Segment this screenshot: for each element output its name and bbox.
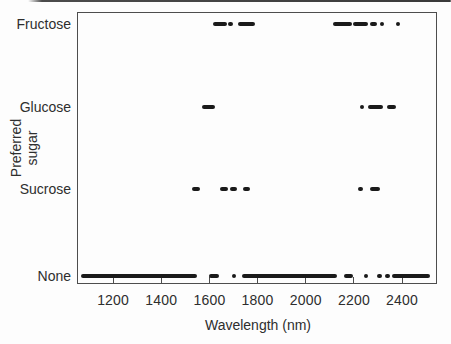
tick-label-2400: 2400 bbox=[372, 292, 432, 308]
category-label-sucrose: Sucrose bbox=[0, 181, 71, 197]
tick-mark-1400 bbox=[161, 277, 162, 283]
data-segment-sucrose bbox=[370, 187, 380, 191]
data-segment-none bbox=[377, 274, 382, 278]
data-segment-none bbox=[385, 274, 390, 278]
tick-mark-1600 bbox=[209, 277, 210, 283]
y-axis-label-line2: sugar bbox=[24, 119, 40, 177]
data-segment-sucrose bbox=[220, 187, 228, 191]
data-segment-fructose bbox=[238, 22, 255, 26]
data-segment-sucrose bbox=[243, 187, 250, 191]
data-segment-fructose bbox=[353, 22, 368, 26]
data-segment-fructose bbox=[213, 22, 227, 26]
data-segment-glucose bbox=[387, 105, 396, 109]
tick-mark-1200 bbox=[113, 277, 114, 283]
data-segment-none bbox=[242, 274, 337, 278]
data-segment-glucose bbox=[368, 105, 383, 109]
data-segment-fructose bbox=[333, 22, 351, 26]
data-segment-none bbox=[392, 274, 430, 278]
y-axis-label-line1: Preferred bbox=[8, 119, 24, 177]
data-segment-none bbox=[344, 274, 353, 278]
data-segment-sucrose bbox=[358, 187, 363, 191]
x-axis-label: Wavelength (nm) bbox=[205, 317, 311, 333]
category-label-none: None bbox=[0, 268, 71, 284]
scan-artifact-line bbox=[28, 0, 451, 2]
tick-mark-2200 bbox=[353, 277, 354, 283]
data-segment-none bbox=[364, 274, 368, 278]
y-axis-label: Preferred sugar bbox=[8, 119, 40, 177]
data-segment-sucrose bbox=[192, 187, 200, 191]
figure: Preferred sugar Wavelength (nm) 12001400… bbox=[0, 0, 451, 344]
category-label-fructose: Fructose bbox=[0, 16, 71, 32]
data-segment-fructose bbox=[228, 22, 233, 26]
category-label-glucose: Glucose bbox=[0, 99, 71, 115]
data-segment-glucose bbox=[202, 105, 215, 109]
data-segment-sucrose bbox=[230, 187, 237, 191]
data-segment-none bbox=[81, 274, 197, 278]
data-segment-fructose bbox=[370, 22, 377, 26]
data-segment-none bbox=[232, 274, 236, 278]
tick-mark-2000 bbox=[305, 277, 306, 283]
data-segment-none bbox=[209, 274, 219, 278]
tick-mark-2400 bbox=[402, 277, 403, 283]
tick-mark-1800 bbox=[257, 277, 258, 283]
plot-area bbox=[77, 12, 437, 284]
